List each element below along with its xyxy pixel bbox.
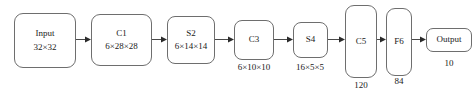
- node-f6[interactable]: F6: [386, 8, 412, 76]
- node-input-shape: 32×32: [33, 42, 56, 53]
- arrow-c3-to-s4: [274, 36, 293, 43]
- node-s4[interactable]: S4: [293, 22, 328, 58]
- node-f6-label: F6: [394, 36, 404, 47]
- node-c3-label: C3: [249, 34, 260, 45]
- node-c1-label: C1: [116, 28, 127, 39]
- node-output-label: Output: [436, 34, 461, 45]
- node-s2-shape: 6×14×14: [175, 41, 208, 52]
- node-c1-shape: 6×28×28: [105, 41, 138, 52]
- arrow-input-to-c1: [76, 36, 91, 43]
- arrow-f6-to-output: [412, 36, 426, 43]
- arrow-s4-to-c5: [328, 36, 345, 43]
- arrow-c5-to-f6: [377, 36, 386, 43]
- node-output[interactable]: Output: [426, 28, 472, 52]
- node-s4-label: S4: [306, 34, 316, 45]
- arrow-c1-to-s2: [152, 36, 167, 43]
- node-c5-label: C5: [356, 36, 367, 47]
- node-input[interactable]: Input 32×32: [14, 13, 76, 68]
- node-s2-label: S2: [186, 28, 196, 39]
- node-s2[interactable]: S2 6×14×14: [167, 16, 215, 64]
- node-input-label: Input: [36, 28, 55, 39]
- arrow-s2-to-c3: [215, 36, 234, 43]
- network-architecture-diagram: Input 32×32 C1 6×28×28 S2 6×14×14 C3 S4 …: [0, 0, 476, 100]
- sublabel-f6: 84: [379, 77, 419, 86]
- sublabel-c5: 120: [341, 81, 381, 90]
- sublabel-output: 10: [429, 59, 469, 68]
- node-c3[interactable]: C3: [234, 20, 274, 60]
- sublabel-c3: 6×10×10: [224, 63, 284, 72]
- sublabel-s4: 16×5×5: [281, 63, 339, 72]
- node-c5[interactable]: C5: [345, 5, 377, 78]
- node-c1[interactable]: C1 6×28×28: [91, 14, 152, 66]
